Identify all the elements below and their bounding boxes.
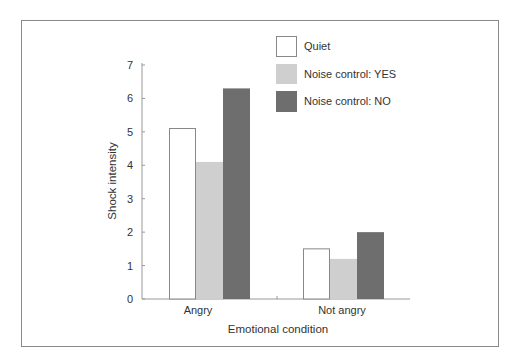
bars xyxy=(170,88,385,299)
y-tick-label: 5 xyxy=(127,126,133,138)
x-axis-label: Emotional condition xyxy=(228,323,328,335)
bar-chart: 01234567 Angry Not angry Emotional condi… xyxy=(0,0,515,363)
bar xyxy=(330,259,357,299)
y-tick-label: 0 xyxy=(127,293,133,305)
y-tick-label: 3 xyxy=(127,193,133,205)
legend-swatch-quiet xyxy=(277,37,297,57)
y-tick-label: 4 xyxy=(127,159,133,171)
legend-swatch-noise-yes xyxy=(276,64,297,84)
legend-swatch-noise-no xyxy=(276,91,297,112)
y-tick-label: 7 xyxy=(127,59,133,71)
legend-label-noise-yes: Noise control: YES xyxy=(304,68,396,80)
y-axis-label: Shock intensity xyxy=(106,142,118,220)
legend: Quiet Noise control: YES Noise control: … xyxy=(276,37,396,113)
y-tick-label: 6 xyxy=(127,92,133,104)
bar xyxy=(170,129,196,299)
y-tick-label: 1 xyxy=(127,260,133,272)
bar xyxy=(304,249,330,299)
bar xyxy=(223,88,250,299)
x-category-not-angry: Not angry xyxy=(318,304,366,316)
y-tick-label: 2 xyxy=(127,226,133,238)
legend-label-noise-no: Noise control: NO xyxy=(304,95,391,107)
bar xyxy=(357,232,384,299)
x-category-angry: Angry xyxy=(184,304,213,316)
bar xyxy=(196,162,223,299)
legend-label-quiet: Quiet xyxy=(304,40,330,52)
